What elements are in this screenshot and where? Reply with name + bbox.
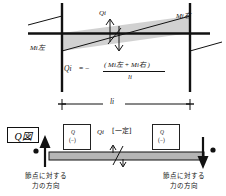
figure-root: Mi左 Mi右 Qi Qi = − ( Mi左 + Mi右 ) li Q図 li… bbox=[0, 0, 226, 196]
q-diagram-title-box: Q図 bbox=[7, 127, 39, 143]
q-diagram-title-text: Q図 bbox=[14, 128, 31, 143]
formula-lhs: Qi bbox=[64, 65, 72, 73]
caption-left-line2: 力の方向 bbox=[10, 182, 82, 190]
shear-beam-bar bbox=[49, 152, 204, 160]
shear-box-left-symbol: Q bbox=[71, 130, 75, 136]
node-dot-left bbox=[33, 148, 38, 153]
formula-equals: = − bbox=[79, 65, 89, 73]
node-dot-right bbox=[210, 147, 215, 152]
span-dimension-line bbox=[58, 99, 194, 110]
label-shear-center: Qi bbox=[97, 129, 104, 136]
formula-denominator: li bbox=[128, 74, 132, 81]
shear-box-right-symbol: Q bbox=[160, 130, 164, 136]
force-arrow-left-up bbox=[40, 135, 51, 167]
label-shear-mid-top: Qi bbox=[99, 10, 106, 17]
label-shear-constant: [一定] bbox=[112, 128, 131, 135]
moment-line-outer-right bbox=[190, 42, 222, 51]
caption-left-line1: 節点に対する bbox=[10, 172, 82, 180]
formula-numerator: ( Mi左 + Mi右 ) bbox=[104, 62, 150, 69]
shear-box-right bbox=[152, 124, 180, 150]
label-span-length: li bbox=[110, 98, 114, 106]
caption-right-line1: 節点に対する bbox=[148, 172, 220, 180]
caption-right-line2: 力の方向 bbox=[148, 182, 220, 190]
label-moment-right: Mi右 bbox=[176, 13, 191, 20]
shear-box-left-sign: (−) bbox=[69, 138, 76, 144]
moment-line-outer-left bbox=[28, 16, 62, 25]
shear-box-left bbox=[63, 124, 91, 150]
shear-box-right-sign: (−) bbox=[158, 138, 165, 144]
label-moment-left: Mi左 bbox=[30, 45, 45, 52]
